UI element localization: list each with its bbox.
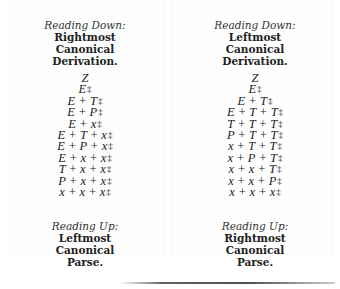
- bottom-shadow-rule: [120, 282, 335, 284]
- left-top-line1: Rightmost: [0, 31, 170, 43]
- left-bottom-line2: Canonical: [0, 244, 170, 256]
- left-top-caption: Reading Down: Rightmost Canonical Deriva…: [0, 19, 170, 67]
- end-marker-icon: ‡: [107, 164, 112, 174]
- end-marker-icon: ‡: [107, 176, 112, 186]
- left-derivation-steps: Z E‡ E + T‡ E + P‡ E + x‡ E + T + x‡ E +…: [0, 73, 170, 198]
- end-marker-icon: ‡: [87, 84, 92, 94]
- derivation-step: x + x + x‡: [0, 187, 170, 198]
- end-marker-icon: ‡: [107, 153, 112, 163]
- right-derivation-steps: Z E‡ E + T‡ E + T + T‡ T + T + T‡ P + T …: [170, 73, 340, 198]
- right-bottom-direction: Reading Up:: [170, 220, 340, 232]
- right-bottom-line2: Canonical: [170, 244, 340, 256]
- right-top-caption: Reading Down: Leftmost Canonical Derivat…: [170, 19, 340, 67]
- left-top-line2: Canonical: [0, 43, 170, 55]
- right-top-direction: Reading Down:: [170, 19, 340, 31]
- end-marker-icon: ‡: [108, 141, 113, 151]
- end-marker-icon: ‡: [108, 130, 113, 140]
- right-bottom-line3: Parse.: [170, 256, 340, 268]
- end-marker-icon: ‡: [106, 187, 111, 197]
- right-bottom-line1: Rightmost: [170, 232, 340, 244]
- right-top-line2: Canonical: [170, 43, 340, 55]
- right-top-line3: Derivation.: [170, 55, 340, 67]
- right-top-line1: Leftmost: [170, 31, 340, 43]
- right-bottom-caption: Reading Up: Rightmost Canonical Parse.: [170, 220, 340, 268]
- end-marker-icon: ‡: [257, 84, 262, 94]
- left-top-direction: Reading Down:: [0, 19, 170, 31]
- left-bottom-direction: Reading Up:: [0, 220, 170, 232]
- left-bottom-caption: Reading Up: Leftmost Canonical Parse.: [0, 220, 170, 268]
- end-marker-icon: ‡: [278, 119, 283, 129]
- left-bottom-line3: Parse.: [0, 256, 170, 268]
- left-top-line3: Derivation.: [0, 55, 170, 67]
- left-bottom-line1: Leftmost: [0, 232, 170, 244]
- end-marker-icon: ‡: [278, 153, 283, 163]
- end-marker-icon: ‡: [276, 187, 281, 197]
- end-marker-icon: ‡: [278, 130, 283, 140]
- end-marker-icon: ‡: [98, 96, 103, 106]
- derivation-step: x + x + x‡: [170, 187, 340, 198]
- end-marker-icon: ‡: [98, 107, 103, 117]
- end-marker-icon: ‡: [277, 164, 282, 174]
- end-marker-icon: ‡: [279, 107, 284, 117]
- end-marker-icon: ‡: [277, 176, 282, 186]
- end-marker-icon: ‡: [278, 141, 283, 151]
